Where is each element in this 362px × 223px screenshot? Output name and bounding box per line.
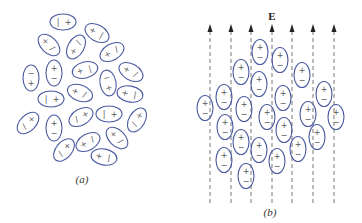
dipole-molecule: +/ [116,59,147,86]
negative-charge-symbol: − [281,131,288,140]
molecule-outline [82,20,113,47]
aligned-dipole-molecule: +− [251,138,267,163]
aligned-dipole-molecule: +− [251,72,267,97]
charge-symbol: / [132,70,139,79]
positive-charge-symbol: + [280,89,287,98]
negative-charge-symbol: − [241,110,248,119]
negative-charge-symbol: − [264,118,271,127]
negative-charge-symbol: − [256,151,263,160]
charge-symbol: + [53,95,60,104]
aligned-dipole-molecule: +− [252,40,268,65]
dipole-molecule: +| [116,84,144,104]
charge-symbol: | [103,110,106,119]
panel-b-aligned-dipoles: +−+−+−+−+−+−+−+−+−+−+−+−+−+−+−+−+−+−+−+−… [197,40,344,189]
dipole-molecule: /+ [66,104,97,131]
aligned-dipole-molecule: +− [290,137,306,162]
molecule-outline [70,59,99,81]
positive-charge-symbol: + [256,75,263,84]
negative-charge-symbol: − [202,109,209,118]
negative-charge-symbol: − [221,161,228,170]
charge-symbol: + [105,83,113,93]
charge-symbol: / [48,44,56,52]
arrow-up-icon [229,24,234,32]
charge-symbol: / [73,115,80,124]
molecule-outline [50,14,76,30]
dipole-molecule: +| [70,59,99,81]
charge-symbol: | [87,64,92,73]
charge-symbol: − [28,69,35,78]
charge-symbol: + [121,88,129,98]
dipole-molecule: /+ [13,108,43,138]
negative-charge-symbol: − [299,76,306,85]
charge-symbol: − [51,129,58,138]
aligned-dipole-molecule: +− [217,115,233,140]
positive-charge-symbol: + [281,121,288,130]
charge-symbol: + [26,114,37,125]
charge-symbol: + [111,110,118,119]
dipole-molecule: |+ [96,106,122,122]
aligned-dipole-molecule: +− [309,125,325,150]
aligned-dipole-molecule: +− [233,60,249,85]
negative-charge-symbol: − [221,98,228,107]
dipole-molecule: +/ [63,32,90,63]
positive-charge-symbol: + [256,141,263,150]
negative-charge-symbol: − [305,115,312,124]
positive-charge-symbol: + [274,152,281,161]
aligned-dipole-molecule: +− [259,105,275,130]
molecule-outline [63,32,90,63]
charge-symbol: / [113,45,120,54]
aligned-dipole-molecule: +− [238,164,254,189]
molecule-outline [90,147,118,167]
positive-charge-symbol: + [295,140,302,149]
dipole-molecule: +− [46,115,62,141]
dipole-molecule: +/ [65,81,95,105]
arrow-up-icon [208,24,213,32]
molecule-outline [50,135,79,165]
negative-charge-symbol: − [222,128,229,137]
arrow-up-icon [290,24,295,32]
charge-symbol: / [56,150,65,158]
arrow-up-icon [332,24,337,32]
panel-a-random-dipoles: |++|+/+/+/−++−+|−++/|++/+|/++−/+|+/+/++/… [13,14,150,167]
negative-charge-symbol: − [321,95,328,104]
positive-charge-symbol: + [222,118,229,127]
positive-charge-symbol: + [221,88,228,97]
positive-charge-symbol: + [264,108,271,117]
charge-symbol: / [130,121,139,128]
charge-symbol: + [76,66,85,76]
charge-symbol: + [28,79,35,88]
dipole-molecule: /+ [124,105,151,136]
arrow-up-icon [311,24,316,32]
charge-symbol: | [45,95,48,104]
charge-symbol: + [68,46,79,56]
charge-symbol: + [71,86,80,97]
panel-a-label: (a) [76,173,89,186]
charge-symbol: + [134,111,145,121]
positive-charge-symbol: + [257,43,264,52]
aligned-dipole-molecule: +− [294,63,310,88]
aligned-dipole-molecule: +− [300,102,316,127]
dipole-molecule: |+ [50,14,76,30]
aligned-dipole-molecule: +− [316,82,332,107]
dipole-molecule: |+ [38,91,64,107]
positive-charge-symbol: + [299,66,306,75]
aligned-dipole-molecule: +− [216,85,232,110]
dipole-molecule: +/ [34,30,64,60]
charge-symbol: + [65,18,72,27]
molecule-outline [65,81,95,105]
charge-symbol: | [107,153,111,162]
molecule-outline [38,91,64,107]
dipole-molecule: +− [46,60,62,86]
aligned-dipole-molecule: +− [275,86,291,111]
charge-symbol: / [116,137,124,145]
negative-charge-symbol: − [314,138,321,147]
positive-charge-symbol: + [202,99,209,108]
molecule-outline [34,30,64,60]
dipole-molecule: +| [82,20,113,47]
aligned-dipole-molecule: +− [236,97,252,122]
positive-charge-symbol: + [238,133,245,142]
positive-charge-symbol: + [321,85,328,94]
positive-charge-symbol: + [333,108,340,117]
dipole-molecule: −+ [23,65,39,91]
positive-charge-symbol: + [243,167,250,176]
